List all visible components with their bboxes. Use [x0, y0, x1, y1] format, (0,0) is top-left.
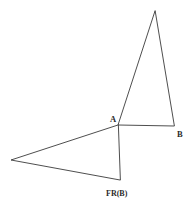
vertex-label-b: B	[177, 129, 183, 139]
vertex-label-fr-b: FR(B)	[106, 189, 128, 198]
vertex-label-a: A	[110, 114, 117, 124]
diagram-canvas: A B FR(B)	[0, 0, 191, 201]
geometry-diagram: A B FR(B)	[0, 0, 191, 201]
upper-triangle	[118, 11, 174, 126]
lower-triangle	[11, 125, 120, 180]
